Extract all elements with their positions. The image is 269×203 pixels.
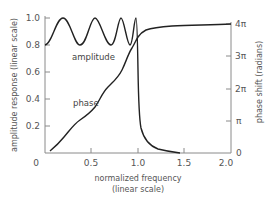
x-tick-label: 2.0 (219, 158, 234, 168)
x-tick-labels: 0 0.5 1.0 1.5 2.0 (33, 158, 233, 168)
right-axis-title: phase shift (radians) (255, 41, 264, 123)
left-tick-label: 1.0 (26, 13, 41, 23)
right-tick-label: π (236, 116, 242, 126)
amplitude-curve (45, 18, 180, 153)
left-tick-label: 0.4 (26, 94, 41, 104)
right-tick-label: 4π (235, 19, 247, 29)
x-tick-label: 1.0 (131, 158, 146, 168)
x-axis-subtitle: (linear scale) (112, 185, 164, 194)
right-tick-label: 2π (235, 84, 247, 94)
right-tick-label: 0 (236, 148, 242, 158)
x-tick-label: 1.5 (177, 158, 191, 168)
left-tick-label: 0.6 (26, 67, 41, 77)
amplitude-label: amplitude (72, 52, 115, 62)
x-tick-label: 0.5 (84, 158, 98, 168)
phase-label: phase (73, 98, 99, 108)
left-tick-label: 0.2 (26, 121, 40, 131)
right-tick-label: 3π (235, 51, 247, 61)
frequency-response-chart: 1.0 0.8 0.6 0.4 0.2 4π 3π 2π π 0 0 0.5 1… (0, 0, 269, 203)
right-tick-labels: 4π 3π 2π π 0 (235, 19, 247, 158)
left-axis-title: amplitude response (linear scale) (10, 18, 19, 152)
left-tick-label: 0.8 (26, 40, 41, 50)
x-axis-title: normalized frequency (94, 174, 181, 183)
left-tick-labels: 1.0 0.8 0.6 0.4 0.2 (26, 13, 41, 131)
x-tick-label: 0 (33, 158, 39, 168)
